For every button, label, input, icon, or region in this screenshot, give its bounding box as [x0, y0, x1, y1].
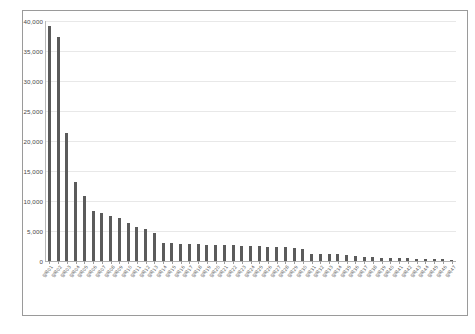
y-axis-tick-labels: 05,00010,00015,00020,00025,00030,00035,0… — [0, 0, 43, 334]
bar — [441, 259, 444, 261]
bar — [389, 258, 392, 261]
y-axis-tick-label: 15,000 — [3, 168, 43, 175]
bar — [197, 244, 200, 261]
y-axis-tick-label: 30,000 — [3, 78, 43, 85]
bar — [266, 247, 269, 261]
x-axis-category-labels: 항목01항목02항목03항목04항목05항목06항목07항목08항목09항목10… — [45, 264, 456, 316]
bar — [223, 245, 226, 261]
y-axis-tick-label: 35,000 — [3, 48, 43, 55]
bar-series — [45, 21, 456, 261]
bar — [319, 254, 322, 262]
bar — [179, 244, 182, 261]
bar — [450, 260, 453, 261]
bar — [57, 37, 60, 261]
bar — [188, 244, 191, 261]
bar — [118, 218, 121, 261]
bar — [363, 257, 366, 261]
bar — [328, 254, 331, 261]
bar — [336, 254, 339, 261]
bar — [433, 259, 436, 261]
bar — [301, 249, 304, 261]
bar — [74, 182, 77, 261]
y-axis-tick-label: 10,000 — [3, 198, 43, 205]
bar — [240, 246, 243, 261]
bar — [92, 211, 95, 261]
bar — [127, 223, 130, 261]
bar — [205, 245, 208, 262]
bar — [135, 227, 138, 261]
chart-screenshot: 05,00010,00015,00020,00025,00030,00035,0… — [0, 0, 475, 334]
bar — [424, 259, 427, 261]
bar — [310, 254, 313, 262]
bar — [258, 246, 261, 261]
bar — [153, 233, 156, 261]
y-axis-tick-label: 25,000 — [3, 108, 43, 115]
bar — [354, 256, 357, 261]
bar — [275, 247, 278, 261]
bar — [415, 259, 418, 261]
bar — [232, 245, 235, 261]
y-axis-tick-label: 40,000 — [3, 18, 43, 25]
bar — [293, 248, 296, 262]
bar — [345, 255, 348, 261]
bar — [109, 216, 112, 261]
bar — [398, 258, 401, 261]
bar — [83, 196, 86, 261]
bar — [214, 245, 217, 261]
bar — [144, 229, 147, 261]
bar — [371, 257, 374, 261]
y-axis-tick-label: 5,000 — [3, 228, 43, 235]
bar — [406, 258, 409, 261]
bar — [65, 133, 68, 261]
bar — [170, 243, 173, 261]
bar — [249, 246, 252, 261]
bar — [284, 247, 287, 261]
y-axis-tick-label: 20,000 — [3, 138, 43, 145]
bar — [48, 26, 51, 261]
bar — [380, 258, 383, 261]
bar — [100, 213, 103, 261]
bar — [162, 243, 165, 261]
y-axis-tick-label: 0 — [3, 258, 43, 265]
